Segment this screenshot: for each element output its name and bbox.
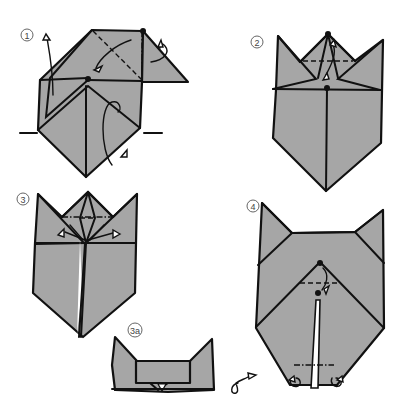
svg-text:3: 3 [20,195,25,205]
svg-text:4: 4 [250,202,255,212]
step-1-figure [20,28,188,177]
step-3a-center-band [136,361,190,383]
origami-diagram: 1 2 [0,0,400,412]
step-3-number: 3 [17,193,29,205]
step-1-number: 1 [21,29,33,41]
step-2-number: 2 [251,36,263,48]
step-3a-figure [112,337,214,392]
step-3-figure [33,192,137,337]
step-2-body [273,34,383,191]
step-4-number: 4 [247,200,259,212]
step-4-figure [256,203,384,388]
turn-over-icon [232,373,256,393]
svg-text:1: 1 [24,31,29,41]
step-3a-number: 3a [128,323,142,337]
svg-text:3a: 3a [130,326,140,336]
step-2-figure [273,31,383,191]
svg-text:2: 2 [254,38,259,48]
